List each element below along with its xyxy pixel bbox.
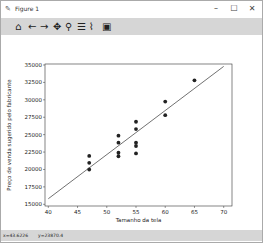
data-point: [87, 154, 91, 158]
x-axis-label: Tamanho da tela: [115, 217, 162, 223]
figure-window: ✎ Figure 1 – ☐ ✕ ⌂ ← → ✥ ⚲ ☰ ⌇ ▣ 4045505…: [0, 0, 263, 243]
data-point: [134, 144, 138, 148]
data-point: [117, 134, 121, 138]
y-tick-label: 35000: [25, 62, 43, 68]
x-tick-label: 50: [103, 209, 110, 215]
data-point: [117, 154, 121, 158]
scatter-chart[interactable]: 4045505560657015000175002000022500250002…: [1, 1, 263, 243]
x-tick-label: 45: [74, 209, 81, 215]
data-point: [87, 161, 91, 165]
plot-area: [45, 64, 232, 206]
x-tick-label: 40: [45, 209, 52, 215]
y-tick-label: 25000: [25, 132, 43, 138]
y-tick-label: 32500: [25, 79, 43, 85]
status-bar: x=43.6226 y=23870.4: [1, 230, 262, 241]
cursor-y: y=23870.4: [38, 233, 63, 238]
data-point: [163, 113, 167, 117]
y-tick-label: 27500: [25, 114, 43, 120]
y-tick-label: 22500: [25, 149, 43, 155]
data-point: [193, 78, 197, 82]
y-tick-label: 30000: [25, 97, 43, 103]
x-tick-label: 65: [191, 209, 198, 215]
x-tick-label: 55: [133, 209, 140, 215]
data-point: [134, 120, 138, 124]
y-tick-label: 20000: [25, 166, 43, 172]
data-point: [163, 100, 167, 104]
data-point: [134, 127, 138, 131]
data-point: [117, 151, 121, 155]
data-point: [134, 141, 138, 145]
data-point: [117, 141, 121, 145]
y-tick-label: 17500: [25, 184, 43, 190]
y-axis-label: Preço de venda sugerido pelo fabricante: [6, 79, 13, 191]
cursor-x: x=43.6226: [3, 233, 28, 238]
y-tick-label: 15000: [25, 201, 43, 207]
data-point: [134, 152, 138, 156]
x-tick-label: 70: [220, 209, 227, 215]
x-tick-label: 60: [162, 209, 169, 215]
